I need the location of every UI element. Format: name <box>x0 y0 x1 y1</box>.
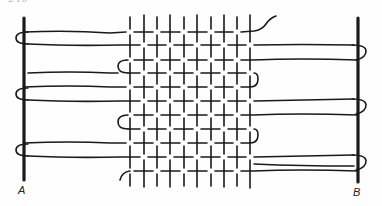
book-page: 246 <box>0 0 382 206</box>
label-bar-a: A <box>18 184 25 196</box>
weaving-diagram <box>0 0 382 206</box>
weft-threads <box>24 16 358 180</box>
label-bar-b: B <box>353 186 360 198</box>
left-bar-loops <box>16 32 28 156</box>
